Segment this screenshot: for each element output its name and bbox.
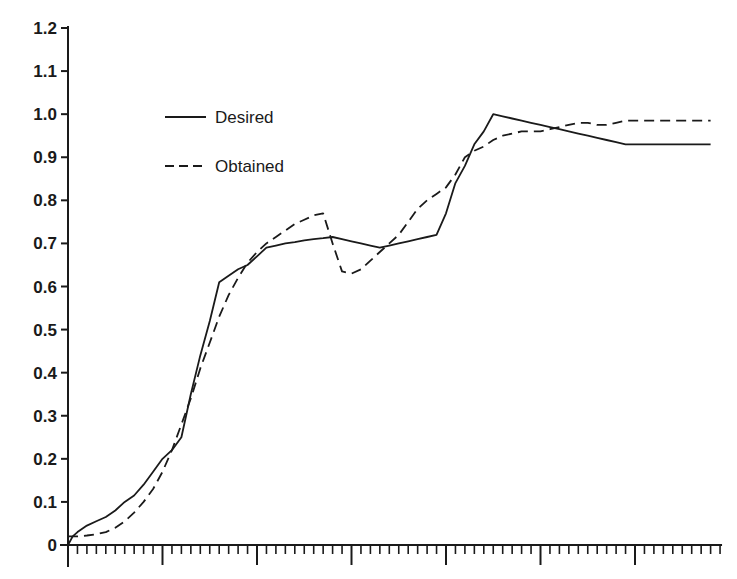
- y-tick-label: 0.5: [33, 321, 57, 340]
- y-tick-label: 0.3: [33, 407, 57, 426]
- y-tick-label: 0: [48, 536, 57, 555]
- y-tick-label: 0.9: [33, 148, 57, 167]
- y-tick-label: 1.2: [33, 19, 57, 38]
- y-tick-label: 0.6: [33, 278, 57, 297]
- y-tick-label: 0.4: [33, 364, 57, 383]
- plot-area: [68, 114, 711, 545]
- y-tick-label: 1.0: [33, 105, 57, 124]
- x-axis: [60, 545, 722, 565]
- legend-label-obtained: Obtained: [215, 157, 284, 176]
- legend: Desired Obtained: [165, 108, 284, 176]
- series-line-obtained: [68, 121, 711, 537]
- series-line-desired: [68, 114, 711, 545]
- y-tick-label: 1.1: [33, 62, 57, 81]
- line-chart: 00.10.20.30.40.50.60.70.80.91.01.11.2 De…: [0, 0, 737, 579]
- y-axis: 00.10.20.30.40.50.60.70.80.91.01.11.2: [33, 19, 68, 567]
- y-tick-label: 0.1: [33, 493, 57, 512]
- y-tick-label: 0.2: [33, 450, 57, 469]
- legend-label-desired: Desired: [215, 108, 274, 127]
- y-tick-label: 0.7: [33, 234, 57, 253]
- y-tick-label: 0.8: [33, 191, 57, 210]
